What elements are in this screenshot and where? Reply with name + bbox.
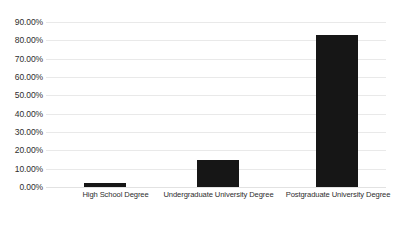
y-tick-label-20: 20.00% [15,146,43,155]
y-tick-label-70: 70.00% [15,54,43,63]
bar-postgraduate-university-degree[interactable] [316,35,358,187]
bar-chart: 90.00% 80.00% 70.00% 60.00% 50.00% 40.00… [0,0,397,229]
y-axis: 90.00% 80.00% 70.00% 60.00% 50.00% 40.00… [0,0,43,229]
x-tick-label-postgraduate-university-degree: Postgraduate University Degree [268,190,397,201]
bars-layer [46,22,386,187]
y-tick-label-50: 50.00% [15,91,43,100]
bar-high-school-degree[interactable] [84,183,126,187]
y-tick-label-30: 30.00% [15,128,43,137]
y-tick-label-80: 80.00% [15,36,43,45]
bar-undergraduate-university-degree[interactable] [197,160,239,188]
y-tick-label-10: 10.00% [15,164,43,173]
y-tick-label-60: 60.00% [15,73,43,82]
y-tick-label-90: 90.00% [15,18,43,27]
y-tick-label-40: 40.00% [15,109,43,118]
x-axis: High School Degree Undergraduate Univers… [46,190,386,229]
gridline-baseline-0 [46,187,386,188]
